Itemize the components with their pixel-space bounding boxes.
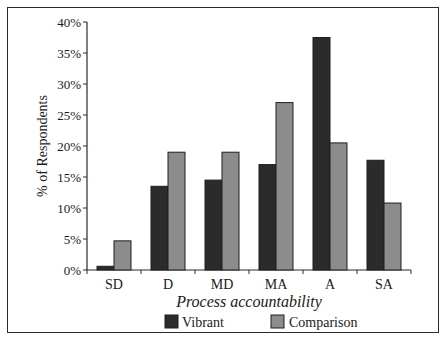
bar-chart: 0%5%10%15%20%25%30%35%40% SDDMDMAASA % o… [0,0,448,349]
y-tick-label: 20% [57,139,81,154]
x-axis: SDDMDMAASA [87,270,411,292]
bar-vibrant-sd [97,266,114,270]
y-tick-label: 40% [57,15,81,30]
y-tick-label: 30% [57,77,81,92]
legend-swatch-comparison [271,315,284,328]
bar-comparison-md [222,152,239,270]
y-axis: 0%5%10%15%20%25%30%35%40% [57,15,87,278]
bar-comparison-d [168,152,185,270]
bar-comparison-a [330,143,347,270]
bar-comparison-sa [384,203,401,270]
x-category-label: SA [375,277,394,292]
legend-label-vibrant: Vibrant [182,315,224,330]
x-category-label: MD [211,277,234,292]
y-tick-label: 35% [57,46,81,61]
bar-vibrant-md [205,180,222,270]
y-tick-label: 0% [64,263,82,278]
y-axis-title: % of Respondents [35,95,50,197]
legend: Vibrant Comparison [165,315,357,330]
x-category-label: MA [265,277,288,292]
x-category-label: D [163,277,173,292]
x-category-label: SD [105,277,123,292]
bar-vibrant-ma [259,165,276,270]
legend-label-comparison: Comparison [289,315,357,330]
bar-comparison-sd [114,241,131,270]
y-tick-label: 15% [57,170,81,185]
bar-vibrant-a [313,38,330,271]
bar-comparison-ma [276,103,293,270]
y-tick-label: 5% [64,232,82,247]
x-axis-title: Process accountability [175,293,322,311]
bar-vibrant-sa [367,160,384,270]
legend-swatch-vibrant [165,315,178,328]
bar-vibrant-d [151,186,168,270]
bars [97,38,401,271]
x-category-label: A [325,277,336,292]
y-tick-label: 25% [57,108,81,123]
y-tick-label: 10% [57,201,81,216]
